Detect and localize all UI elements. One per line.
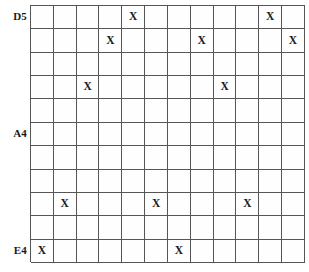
grid-cell[interactable] [168, 6, 191, 29]
grid-cell[interactable] [77, 170, 100, 193]
grid-cell[interactable] [145, 216, 168, 239]
grid-cell[interactable] [259, 53, 282, 76]
grid-cell[interactable] [99, 123, 122, 146]
grid-cell[interactable] [214, 240, 237, 263]
grid-cell[interactable] [31, 29, 54, 52]
grid-cell[interactable] [282, 123, 305, 146]
grid-cell[interactable] [122, 53, 145, 76]
grid-cell[interactable] [31, 146, 54, 169]
grid-cell[interactable] [54, 29, 77, 52]
grid-cell[interactable]: X [236, 193, 259, 216]
grid-cell[interactable] [145, 240, 168, 263]
grid-cell[interactable] [168, 216, 191, 239]
grid-cell[interactable] [236, 99, 259, 122]
grid-cell[interactable] [99, 76, 122, 99]
grid-cell[interactable] [236, 76, 259, 99]
grid-cell[interactable] [282, 216, 305, 239]
grid-cell[interactable] [77, 123, 100, 146]
grid-cell[interactable] [236, 53, 259, 76]
grid-cell[interactable] [54, 216, 77, 239]
grid-cell[interactable] [99, 146, 122, 169]
grid-cell[interactable] [99, 240, 122, 263]
grid-cell[interactable] [236, 6, 259, 29]
grid-cell[interactable] [191, 76, 214, 99]
grid-cell[interactable] [31, 170, 54, 193]
grid-cell[interactable] [259, 170, 282, 193]
grid-cell[interactable] [145, 123, 168, 146]
grid-cell[interactable] [99, 53, 122, 76]
grid-cell[interactable] [77, 216, 100, 239]
grid-cell[interactable] [214, 99, 237, 122]
grid-cell[interactable]: X [145, 193, 168, 216]
grid-cell[interactable] [168, 193, 191, 216]
grid-cell[interactable] [122, 146, 145, 169]
grid-cell[interactable] [145, 6, 168, 29]
grid-cell[interactable] [282, 170, 305, 193]
grid-cell[interactable]: X [99, 29, 122, 52]
grid-cell[interactable] [99, 99, 122, 122]
grid-cell[interactable] [122, 29, 145, 52]
grid-cell[interactable] [236, 123, 259, 146]
grid-cell[interactable] [54, 99, 77, 122]
grid-cell[interactable] [99, 6, 122, 29]
grid-cell[interactable] [77, 29, 100, 52]
grid-cell[interactable] [214, 29, 237, 52]
grid-cell[interactable] [77, 146, 100, 169]
grid-cell[interactable] [191, 123, 214, 146]
seat-grid[interactable]: XXXXXXXXXXXX [30, 5, 305, 262]
grid-cell[interactable] [168, 99, 191, 122]
grid-cell[interactable] [214, 170, 237, 193]
grid-cell[interactable] [214, 53, 237, 76]
grid-cell[interactable] [168, 170, 191, 193]
grid-cell[interactable] [145, 76, 168, 99]
grid-cell[interactable] [236, 29, 259, 52]
grid-cell[interactable] [31, 76, 54, 99]
grid-cell[interactable] [31, 6, 54, 29]
grid-cell[interactable] [145, 146, 168, 169]
grid-cell[interactable] [54, 76, 77, 99]
grid-cell[interactable] [99, 170, 122, 193]
grid-cell[interactable] [259, 76, 282, 99]
grid-cell[interactable] [168, 146, 191, 169]
grid-cell[interactable] [191, 53, 214, 76]
grid-cell[interactable] [54, 170, 77, 193]
grid-cell[interactable]: X [54, 193, 77, 216]
grid-cell[interactable] [31, 99, 54, 122]
grid-cell[interactable] [282, 146, 305, 169]
grid-cell[interactable] [259, 99, 282, 122]
grid-cell[interactable] [214, 6, 237, 29]
grid-cell[interactable] [259, 216, 282, 239]
grid-cell[interactable] [236, 216, 259, 239]
grid-cell[interactable] [54, 6, 77, 29]
grid-cell[interactable]: X [214, 76, 237, 99]
grid-cell[interactable] [191, 170, 214, 193]
grid-cell[interactable] [282, 240, 305, 263]
grid-cell[interactable] [191, 99, 214, 122]
grid-cell[interactable] [31, 193, 54, 216]
grid-cell[interactable] [77, 99, 100, 122]
grid-cell[interactable]: X [77, 76, 100, 99]
grid-cell[interactable] [54, 146, 77, 169]
grid-cell[interactable] [77, 240, 100, 263]
grid-cell[interactable] [31, 216, 54, 239]
grid-cell[interactable] [122, 99, 145, 122]
grid-cell[interactable]: X [259, 6, 282, 29]
grid-cell[interactable] [259, 193, 282, 216]
grid-cell[interactable] [168, 76, 191, 99]
grid-cell[interactable] [54, 123, 77, 146]
grid-cell[interactable] [214, 193, 237, 216]
grid-cell[interactable] [145, 29, 168, 52]
grid-cell[interactable] [259, 240, 282, 263]
grid-cell[interactable] [77, 53, 100, 76]
grid-cell[interactable] [145, 170, 168, 193]
grid-cell[interactable] [168, 123, 191, 146]
grid-cell[interactable] [282, 53, 305, 76]
grid-cell[interactable] [259, 146, 282, 169]
grid-cell[interactable] [191, 146, 214, 169]
grid-cell[interactable] [122, 216, 145, 239]
grid-cell[interactable] [31, 53, 54, 76]
grid-cell[interactable] [31, 123, 54, 146]
grid-cell[interactable]: X [282, 29, 305, 52]
grid-cell[interactable] [259, 123, 282, 146]
grid-cell[interactable] [99, 216, 122, 239]
